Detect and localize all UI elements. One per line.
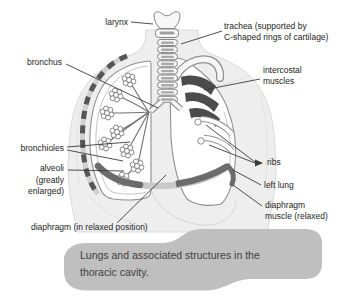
label-diaphragm-muscle: diaphragm muscle (relaxed) bbox=[265, 200, 328, 223]
label-bronchus: bronchus bbox=[27, 57, 62, 68]
label-larynx: larynx bbox=[84, 17, 128, 28]
label-bronchioles: bronchioles bbox=[14, 143, 64, 154]
label-trachea: trachea (supported by C-shaped rings of … bbox=[224, 21, 346, 44]
larynx-leader-line bbox=[131, 22, 153, 24]
label-intercostal-muscles: intercostal muscles bbox=[263, 65, 302, 88]
figure-caption: Lungs and associated structures in the t… bbox=[80, 247, 300, 280]
trachea-drawing bbox=[158, 40, 178, 103]
label-left-lung: left lung bbox=[264, 180, 294, 191]
label-alveoli: alveoli (greatly enlarged) bbox=[10, 163, 64, 198]
label-ribs: ribs bbox=[267, 157, 281, 168]
figure-diagram: larynx trachea (supported by C-shaped ri… bbox=[0, 0, 350, 302]
label-diaphragm: diaphragm (in relaxed position) bbox=[31, 222, 148, 233]
larynx-drawing bbox=[154, 12, 180, 38]
